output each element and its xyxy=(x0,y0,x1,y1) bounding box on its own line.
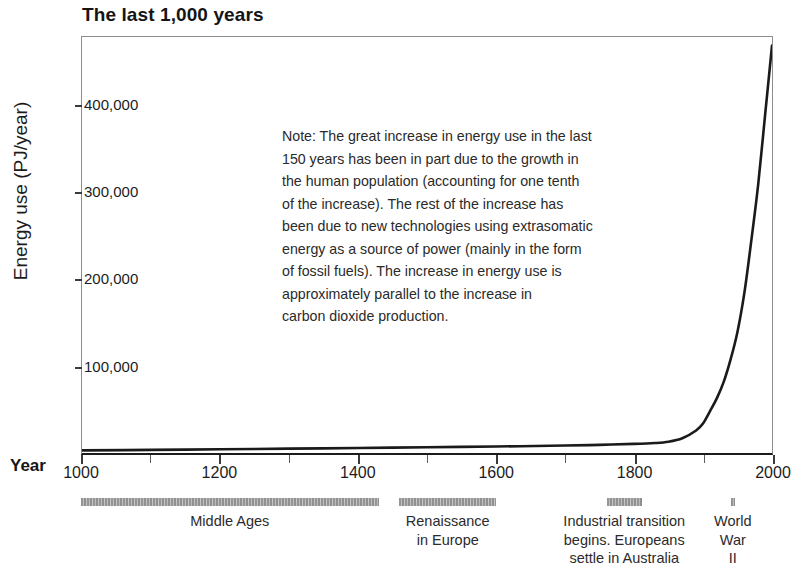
chart-title: The last 1,000 years xyxy=(82,4,264,26)
era-label-renaissance: Renaissancein Europe xyxy=(406,512,490,549)
x-tick-mark xyxy=(358,455,360,464)
chart-note-line: the human population (accounting for one… xyxy=(282,170,664,193)
x-axis-title: Year xyxy=(10,456,46,476)
x-tick-mark xyxy=(496,455,498,464)
era-label-line: II xyxy=(714,549,752,567)
x-tick-label: 1800 xyxy=(617,464,653,482)
era-label-world-war-ii: WorldWarII xyxy=(714,512,752,567)
era-label-industrial-transition: Industrial transitionbegins. Europeansse… xyxy=(563,512,685,567)
y-tick-mark xyxy=(75,367,82,369)
era-label-line: World xyxy=(714,512,752,531)
x-tick-mark xyxy=(81,455,83,464)
chart-note: Note: The great increase in energy use i… xyxy=(282,125,664,328)
chart-note-line: approximately parallel to the increase i… xyxy=(282,283,664,306)
era-label-line: Middle Ages xyxy=(190,512,269,531)
y-tick-label: 300,000 xyxy=(84,183,138,200)
x-tick-mark xyxy=(635,455,637,464)
y-tick-label: 400,000 xyxy=(84,96,138,113)
x-tick-label: 1000 xyxy=(63,464,99,482)
era-label-line: Renaissance xyxy=(406,512,490,531)
x-tick-mark xyxy=(219,455,221,464)
era-label-middle-ages: Middle Ages xyxy=(190,512,269,531)
x-tick-mark xyxy=(150,455,151,463)
x-tick-mark xyxy=(289,455,290,463)
y-axis-title: Energy use (PJ/year) xyxy=(10,41,32,341)
chart-note-line: been due to new technologies using extra… xyxy=(282,215,664,238)
era-bar-middle-ages xyxy=(81,498,379,506)
era-label-line: settle in Australia xyxy=(563,549,685,567)
era-label-line: Industrial transition xyxy=(563,512,685,531)
era-bar-renaissance xyxy=(399,498,496,506)
x-tick-label: 1200 xyxy=(202,464,238,482)
y-tick-mark xyxy=(75,279,82,281)
x-tick-mark xyxy=(565,455,566,463)
x-tick-mark xyxy=(704,455,705,463)
y-tick-mark xyxy=(75,105,82,107)
chart-note-line: 150 years has been in part due to the gr… xyxy=(282,148,664,171)
chart-note-line: of the increase). The rest of the increa… xyxy=(282,193,664,216)
era-bar-world-war-ii xyxy=(731,498,735,506)
x-tick-label: 1600 xyxy=(478,464,514,482)
chart-note-line: carbon dioxide production. xyxy=(282,305,664,328)
era-bar-industrial-transition xyxy=(607,498,642,506)
x-tick-mark xyxy=(427,455,428,463)
era-label-line: in Europe xyxy=(406,531,490,550)
y-tick-label: 100,000 xyxy=(84,358,138,375)
era-label-line: begins. Europeans xyxy=(563,531,685,550)
chart-note-line: of fossil fuels). The increase in energy… xyxy=(282,260,664,283)
chart-note-line: Note: The great increase in energy use i… xyxy=(282,125,664,148)
y-tick-mark xyxy=(75,192,82,194)
plot-frame: Note: The great increase in energy use i… xyxy=(81,36,773,455)
x-tick-label: 1400 xyxy=(340,464,376,482)
x-tick-mark xyxy=(773,455,775,464)
y-tick-label: 200,000 xyxy=(84,270,138,287)
x-tick-label: 2000 xyxy=(755,464,791,482)
era-label-line: War xyxy=(714,531,752,550)
chart-note-line: energy as a source of power (mainly in t… xyxy=(282,238,664,261)
